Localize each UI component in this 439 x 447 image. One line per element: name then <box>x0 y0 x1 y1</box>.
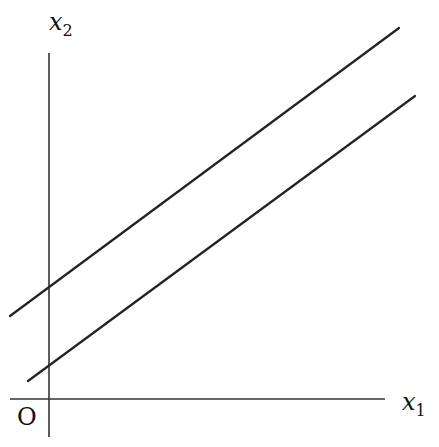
x1-axis-label: x1 <box>402 388 426 420</box>
x2-label-var: x <box>49 8 63 36</box>
origin-text: O <box>17 403 37 431</box>
x2-axis-label: x2 <box>49 8 73 40</box>
lower-line <box>28 96 415 381</box>
coordinate-diagram <box>0 0 439 447</box>
origin-label: O <box>17 403 37 431</box>
x2-label-sub: 2 <box>63 21 73 40</box>
x1-label-var: x <box>402 388 416 416</box>
upper-line <box>10 28 399 316</box>
x1-label-sub: 1 <box>416 401 426 420</box>
